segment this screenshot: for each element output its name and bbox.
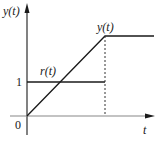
y-axis-arrow-icon: [25, 3, 30, 13]
control-response-diagram: y(t) t 0 1 y(t) r(t): [0, 0, 160, 141]
x-axis-label: t: [143, 123, 147, 137]
origin-label: 0: [15, 118, 21, 132]
x-axis-arrow-icon: [145, 114, 155, 119]
y-axis-label: y(t): [2, 4, 20, 18]
tick-label-one: 1: [16, 75, 22, 89]
r-curve-label: r(t): [40, 64, 56, 78]
y-curve-label: y(t): [96, 20, 114, 34]
